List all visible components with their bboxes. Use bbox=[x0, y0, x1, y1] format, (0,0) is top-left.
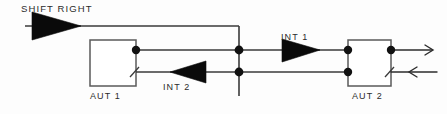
shift-right-buffer-triangle bbox=[32, 12, 81, 40]
aut2-right-top-terminal-dot bbox=[387, 46, 395, 54]
aut1-label: AUT 1 bbox=[90, 92, 121, 101]
aut1-top-terminal-dot bbox=[132, 46, 140, 54]
int1-label: INT 1 bbox=[281, 33, 308, 42]
shift-right-diagram: SHIFT RIGHT AUT 1 AUT 2 INT 1 INT 2 bbox=[0, 0, 447, 114]
int2-buffer-triangle bbox=[170, 61, 206, 83]
int2-label: INT 2 bbox=[163, 83, 190, 92]
aut1-block bbox=[90, 40, 136, 86]
aut2-block bbox=[348, 40, 391, 86]
bus-top-junction-dot bbox=[235, 46, 244, 55]
aut2-label: AUT 2 bbox=[352, 92, 383, 101]
shift-right-label: SHIFT RIGHT bbox=[21, 4, 93, 14]
aut2-left-top-terminal-dot bbox=[344, 46, 352, 54]
bus-bottom-junction-dot bbox=[235, 68, 244, 77]
int1-buffer-triangle bbox=[282, 39, 320, 62]
aut2-left-bottom-terminal-dot bbox=[344, 68, 352, 76]
